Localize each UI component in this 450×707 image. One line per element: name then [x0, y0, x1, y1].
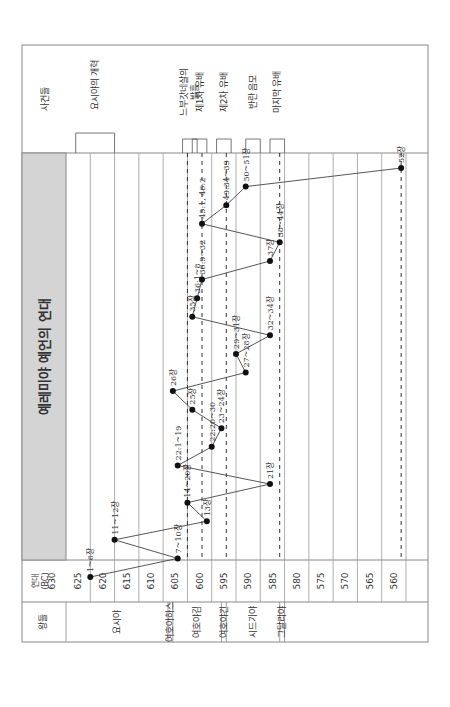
year-tick-label: 615 [122, 572, 132, 589]
king-name: 시드기야 [248, 606, 258, 638]
chapter-label: 38~44장 [275, 202, 285, 237]
title-band: 예레미야 예언의 연대 [22, 153, 66, 560]
chapter-line-series: 1~6장7~10장11~12장13장14~20장21장22:1~1922:20~… [85, 145, 406, 580]
event-dashed-lines [187, 153, 401, 560]
year-tick-label: 585 [268, 572, 278, 589]
event-label: 제1차 유배 [194, 72, 205, 113]
chapter-label: 52장 [396, 145, 406, 163]
chapter-label: 50~51장 [241, 147, 251, 182]
chapter-label: 11~12장 [110, 500, 120, 535]
chart-frame [22, 45, 428, 642]
chapter-point [223, 202, 229, 208]
chapter-point [87, 574, 93, 580]
king-name: 여호야긴 [218, 606, 229, 638]
year-tick-label: 605 [170, 572, 180, 589]
chapter-point [243, 184, 249, 190]
year-tick-label: 560 [389, 572, 399, 589]
event-bracket [76, 133, 115, 153]
event-label: 반란 음모 [247, 75, 258, 110]
chapter-point [175, 462, 181, 468]
king-name: 요시야 [112, 610, 122, 634]
chapter-point [277, 239, 283, 245]
chapter-point [189, 407, 195, 413]
chapter-point [209, 444, 215, 450]
chapter-label: 26장 [168, 368, 178, 386]
chapter-label: 22:20~30 [208, 402, 217, 442]
event-bracket [183, 139, 198, 153]
chapter-point [267, 481, 273, 487]
chapter-point [175, 555, 181, 561]
chapter-label: 36:9~32 [198, 240, 207, 275]
year-tick-label: 610 [146, 572, 156, 589]
chapter-point [267, 332, 273, 338]
chapter-point [243, 370, 249, 376]
chapter-point [199, 221, 205, 227]
event-label: 요시야의 개혁 [90, 60, 100, 111]
chapter-point [194, 295, 200, 301]
year-axis-label: 연대 [31, 574, 40, 588]
chapter-label: 27~28장 [241, 332, 251, 367]
chapter-label: 23~24장 [216, 388, 226, 423]
chapter-label: 21장 [265, 461, 275, 479]
chapter-label: 7~10장 [173, 523, 183, 553]
chapter-label: 37장 [265, 238, 275, 256]
chapter-label: 25장 [187, 387, 197, 405]
king-name: 여호야김 [191, 606, 202, 638]
chapter-label: 22:1~19 [174, 426, 183, 461]
king-name: 여호아하스 [164, 602, 175, 642]
year-tick-label: 630 [47, 572, 57, 589]
chart-title: 예레미야 예언의 연대 [37, 298, 52, 415]
year-tick-label: 625 [73, 572, 83, 589]
year-gridlines [90, 153, 406, 602]
year-axis: 연대(BC)6306256206156106056005955905855805… [31, 572, 399, 589]
chapter-point [267, 258, 273, 264]
prophecy-timeline-chart: 예레미야 예언의 연대 사건들요시야의 개혁느부갓네살의발흥제1차 유배제2차 … [0, 0, 450, 707]
year-tick-label: 570 [340, 572, 350, 589]
year-tick-label: 575 [316, 572, 326, 589]
kings-row: 왕들요시야여호아하스여호야김여호야긴시드기야그달리야 [38, 602, 287, 642]
event-label: 제2차 유배 [218, 72, 229, 113]
chapter-point [199, 277, 205, 283]
chapter-label: 49:34~39 [222, 160, 231, 200]
chapter-point [112, 537, 118, 543]
chapter-point [218, 425, 224, 431]
event-label: 마지막 유배 [272, 71, 282, 114]
chapter-point [189, 314, 195, 320]
chapter-point [398, 165, 404, 171]
event-bracket [270, 139, 285, 153]
year-tick-label: 590 [243, 572, 253, 589]
events-row: 사건들요시야의 개혁느부갓네살의발흥제1차 유배제2차 유배반란 음모마지막 유… [40, 60, 285, 153]
chapter-label: 29~31장 [231, 314, 241, 349]
chapter-label: 1~6장 [85, 547, 95, 572]
kings-header: 왕들 [38, 614, 48, 630]
chapter-point [233, 351, 239, 357]
year-tick-label: 600 [195, 572, 205, 589]
chapter-label: 45:1, 46:2 [198, 178, 207, 219]
event-bracket [217, 139, 232, 153]
king-name: 그달리야 [276, 606, 287, 638]
chapter-point [204, 518, 210, 524]
chapter-label: 14~20장 [182, 463, 192, 498]
event-bracket [192, 139, 207, 153]
chapter-label: 13장 [202, 498, 212, 516]
event-label: 느부갓네살의 [179, 68, 189, 116]
chapter-point [170, 388, 176, 394]
events-header: 사건들 [40, 87, 50, 111]
year-tick-label: 580 [292, 572, 302, 589]
chapter-label: 32~34장 [265, 295, 275, 330]
chapter-point [184, 500, 190, 506]
year-tick-label: 565 [365, 572, 375, 589]
year-tick-label: 595 [219, 572, 229, 589]
outer-border [22, 45, 428, 642]
